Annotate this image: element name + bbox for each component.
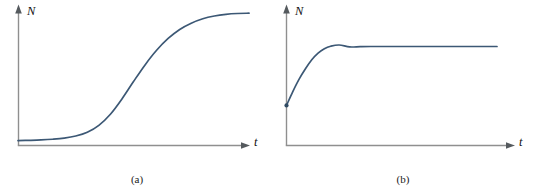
panel-caption-a: (a) bbox=[107, 174, 167, 185]
x-axis-a bbox=[18, 142, 250, 149]
x-axis-label-b: t bbox=[519, 136, 522, 149]
x-axis-b bbox=[286, 142, 515, 149]
y-axis-a bbox=[15, 5, 22, 146]
x-axis-label-a: t bbox=[254, 136, 257, 149]
panel-b: N t (b) bbox=[268, 0, 536, 196]
y-axis-b bbox=[283, 5, 290, 146]
y-axis-label-b: N bbox=[295, 5, 303, 18]
panel-caption-b: (b) bbox=[373, 174, 433, 185]
x-axis-arrowhead-b bbox=[506, 142, 515, 149]
x-axis-arrowhead-a bbox=[241, 142, 250, 149]
curve-start-point-b bbox=[284, 103, 288, 107]
panel-a: N t (a) bbox=[0, 0, 268, 196]
plot-b bbox=[268, 0, 536, 196]
y-axis-arrowhead-b bbox=[283, 5, 290, 14]
growth-curves-figure: N t (a) N t (b) bbox=[0, 0, 536, 196]
plot-a bbox=[0, 0, 268, 196]
curve-logistic-a bbox=[18, 13, 249, 140]
y-axis-arrowhead-a bbox=[15, 5, 22, 14]
curve-saturating-b bbox=[287, 45, 498, 105]
y-axis-label-a: N bbox=[27, 5, 35, 18]
